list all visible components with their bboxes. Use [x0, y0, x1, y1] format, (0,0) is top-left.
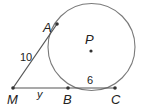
length-label-bc: 6: [87, 74, 93, 86]
length-label-mb: y: [36, 88, 44, 100]
point-a: [55, 22, 59, 26]
point-m: [11, 86, 15, 90]
point-b: [66, 86, 70, 90]
label-c: C: [111, 92, 121, 107]
label-m: M: [7, 92, 18, 107]
point-p-center: [89, 49, 92, 52]
geometry-diagram: A P M B C 10 6 y: [0, 0, 141, 108]
length-label-ma: 10: [20, 51, 32, 63]
label-a: A: [42, 20, 52, 35]
label-b: B: [63, 92, 72, 107]
point-c: [113, 86, 117, 90]
label-p: P: [85, 32, 94, 47]
